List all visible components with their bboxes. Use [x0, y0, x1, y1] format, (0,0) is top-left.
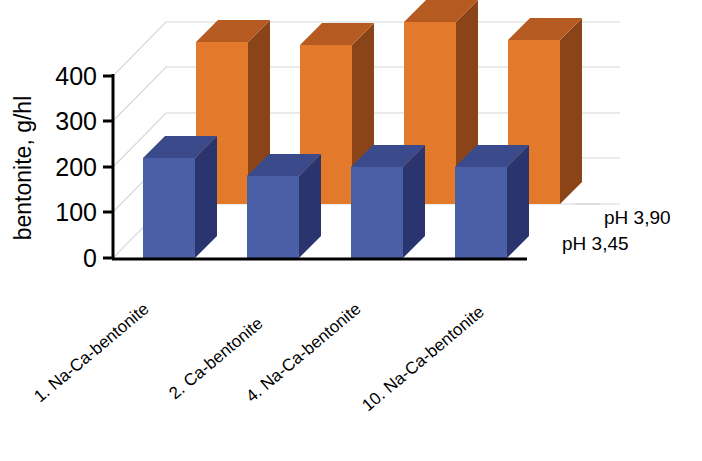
bar-blue-4-front — [455, 167, 507, 258]
legend-label-ph-390: pH 3,90 — [604, 207, 671, 228]
x-category-label-4: 10. Na-Ca-bentonite — [358, 302, 487, 415]
bar-blue-2 — [247, 154, 321, 258]
legend-label-ph-345: pH 3,45 — [562, 233, 629, 254]
y-axis-title: bentonite, g/hl — [10, 96, 36, 241]
bar-blue-3 — [351, 145, 425, 258]
x-category-label-3: 4. Na-Ca-bentonite — [242, 299, 364, 406]
bar-blue-2-front — [247, 176, 299, 258]
bar-blue-1-front — [143, 158, 195, 258]
bar-blue-4 — [455, 145, 529, 258]
bar-blue-1 — [143, 136, 217, 258]
y-tick-label-300: 300 — [55, 107, 97, 135]
y-axis — [103, 74, 113, 259]
x-category-label-1: 1. Na-Ca-bentonite — [30, 299, 152, 406]
chart-canvas: 400 300 200 100 0 bentonite, g/hl — [0, 0, 702, 461]
bar-chart-3d: 400 300 200 100 0 bentonite, g/hl — [0, 0, 702, 461]
y-tick-label-100: 100 — [55, 198, 97, 226]
y-tick-label-0: 0 — [83, 244, 97, 272]
bar-orange-4-side — [560, 18, 582, 204]
bar-blue-3-front — [351, 167, 403, 258]
y-tick-label-400: 400 — [55, 62, 97, 90]
y-tick-label-200: 200 — [55, 153, 97, 181]
